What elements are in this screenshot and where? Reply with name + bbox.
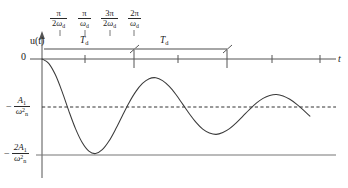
fraction-numerator: A1	[14, 96, 30, 107]
fraction-denominator: ωd	[128, 19, 141, 30]
denominator-subscript: d	[86, 22, 89, 28]
fraction: 2π ωd	[128, 9, 141, 29]
steady-state-level-label: − A1 ω2n	[6, 96, 30, 117]
tick-label-pi-over-2wd: π 2ωd	[50, 9, 67, 29]
fraction-denominator: ω2n	[12, 154, 29, 164]
y-axis-label: u(t)	[30, 36, 44, 46]
fraction: π ωd	[78, 9, 91, 29]
origin-label: 0	[21, 52, 26, 62]
fraction-numerator: 2A1	[12, 143, 29, 154]
denominator-subscript: n	[23, 158, 26, 164]
numerator-main: 2A	[14, 142, 24, 152]
top-tick-leaders	[60, 30, 134, 36]
tick-label-pi-over-wd: π ωd	[78, 9, 91, 29]
denominator-subscript: n	[25, 111, 28, 117]
lower-envelope-level-label: − 2A1 ω2n	[4, 143, 29, 164]
denominator-subscript: d	[136, 22, 139, 28]
fraction: π 2ωd	[50, 9, 67, 29]
fraction-denominator: 2ωd	[50, 19, 67, 30]
denominator-subscript: d	[62, 22, 65, 28]
fraction: 2A1 ω2n	[12, 143, 29, 164]
fraction: A1 ω2n	[14, 96, 30, 117]
fraction-denominator: ωd	[78, 19, 91, 30]
figure-root: u(t) 0 t Td Td π 2ωd π ωd 3π 2ωd 2π ωd	[0, 0, 348, 188]
minus-sign: −	[6, 102, 14, 112]
numerator-subscript: 1	[24, 147, 27, 153]
denominator-subscript: d	[113, 22, 116, 28]
fraction: 3π 2ωd	[101, 9, 118, 29]
response-curve	[42, 59, 310, 154]
period-label-2-sub: d	[165, 39, 168, 46]
period-label-1: Td	[80, 36, 89, 46]
numerator-subscript: 1	[23, 100, 26, 106]
tick-label-2pi-over-wd: 2π ωd	[128, 9, 141, 29]
fraction-denominator: 2ωd	[101, 19, 118, 30]
minus-sign: −	[4, 149, 12, 159]
period-label-2: Td	[160, 36, 169, 46]
x-axis-label: t	[338, 54, 341, 64]
period-label-1-sub: d	[85, 39, 88, 46]
fraction-denominator: ω2n	[14, 107, 30, 117]
tick-label-3pi-over-2wd: 3π 2ωd	[101, 9, 118, 29]
